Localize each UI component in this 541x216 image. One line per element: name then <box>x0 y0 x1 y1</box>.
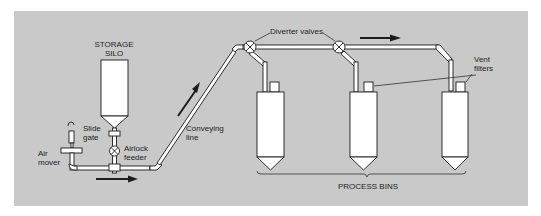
vent-filters-label: Vent filters <box>474 55 493 73</box>
bin3-elbow <box>436 45 452 62</box>
diverter-valves-label: Diverter valves <box>270 27 323 36</box>
air-mover-label: Air mover <box>38 149 60 167</box>
storage-silo-label: STORAGE SILO <box>92 40 136 58</box>
diverter-leader-2 <box>323 33 335 41</box>
flow-arrow-bottom <box>96 176 138 183</box>
airlock-feeder <box>110 146 120 156</box>
flow-arrow-top <box>360 35 401 42</box>
vent-filter-3 <box>456 82 465 92</box>
conveying-line-label: Conveying line <box>186 124 224 142</box>
diverter-leader-1 <box>255 33 270 41</box>
vent-filter-2 <box>364 82 373 92</box>
diverter-valve-1 <box>244 41 256 53</box>
top-elbow <box>232 45 244 52</box>
process-bin-1 <box>257 82 284 170</box>
diverter-valve-2 <box>333 41 345 53</box>
storage-silo <box>101 60 128 128</box>
bin1-inlet-pipe <box>263 62 267 92</box>
airlock-feeder-label: Airlock feeder <box>124 144 148 162</box>
process-bins-brace <box>257 171 466 177</box>
bin3-inlet-pipe <box>449 60 453 91</box>
process-bin-3 <box>442 82 468 170</box>
process-bin-2 <box>350 82 377 170</box>
feeder-tee <box>109 164 120 171</box>
process-bins-label: PROCESS BINS <box>338 182 398 191</box>
slide-gate-label: Slide gate <box>83 124 101 142</box>
slide-gate <box>109 131 120 136</box>
conveying-line <box>157 50 236 165</box>
vent-filter-leader-3 <box>466 74 472 82</box>
bin2-inlet-pipe <box>354 62 358 92</box>
air-mover <box>61 122 82 170</box>
